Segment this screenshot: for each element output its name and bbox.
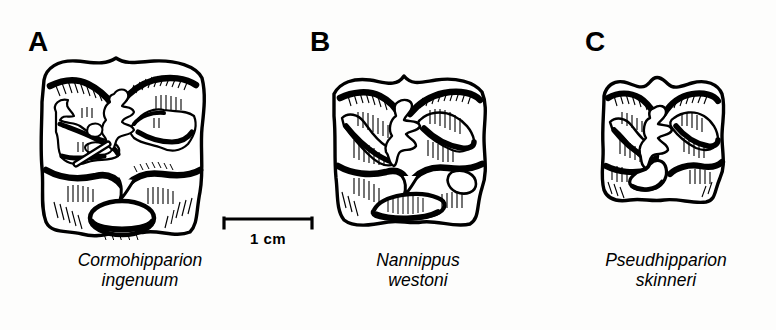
caption-species-b: westoni [280,270,556,290]
panel-a: A [0,0,280,330]
caption-genus-a: Cormohipparion [0,250,280,270]
panel-letter-b: B [310,28,330,56]
scale-bar-label: 1 cm [222,230,314,247]
caption-panel-b: Nannippus westoni [280,250,556,290]
caption-species-c: skinneri [556,270,776,290]
figure-plate: A [0,0,776,330]
panel-letter-c: C [585,28,605,56]
caption-genus-c: Pseudhipparion [556,250,776,270]
caption-panel-a: Cormohipparion ingenuum [0,250,280,290]
caption-panel-c: Pseudhipparion skinneri [556,250,776,290]
tooth-drawing-pseudhipparion-skinneri [594,70,730,210]
caption-genus-b: Nannippus [280,250,556,270]
panel-b: B [280,0,556,330]
tooth-drawing-cormohipparion-ingenuum [30,52,216,240]
tooth-drawing-nannippus-westoni [324,68,494,232]
panel-c: C [556,0,776,330]
caption-species-a: ingenuum [0,270,280,290]
